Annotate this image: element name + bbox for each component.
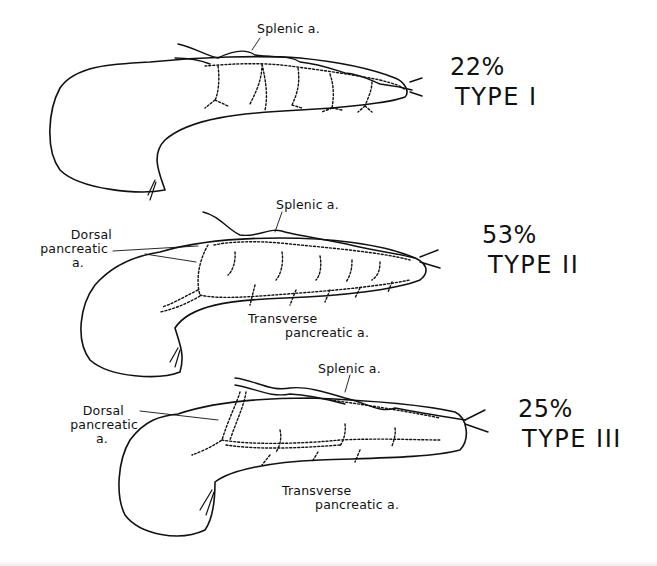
percentage-label: 25% xyxy=(518,396,573,422)
pancreas-type-3 xyxy=(119,375,488,536)
dorsal-pancreatic-label-line2: pancreatic xyxy=(18,242,108,256)
type-label: TYPE III xyxy=(522,426,622,452)
splenic-artery-label: Splenic a. xyxy=(257,22,320,36)
splenic-artery-label: Splenic a. xyxy=(318,362,381,376)
splenic-artery-label: Splenic a. xyxy=(276,198,339,212)
type-label: TYPE I xyxy=(455,84,538,110)
cropped-caption-edge xyxy=(0,560,657,566)
transverse-pancreatic-label-line2: pancreatic a. xyxy=(285,326,369,340)
transverse-pancreatic-label-line2: pancreatic a. xyxy=(315,498,399,512)
transverse-pancreatic-label-line1: Transverse xyxy=(248,312,317,326)
dorsal-pancreatic-label-line3: a. xyxy=(96,432,108,446)
dorsal-pancreatic-label-line3: a. xyxy=(72,256,84,270)
type-label: TYPE II xyxy=(488,252,579,278)
transverse-pancreatic-label-line1: Transverse xyxy=(282,484,351,498)
percentage-label: 22% xyxy=(450,54,505,80)
percentage-label: 53% xyxy=(482,222,537,248)
dorsal-pancreatic-label-line2: pancreatic xyxy=(42,418,138,432)
pancreas-type-1 xyxy=(50,38,422,200)
pancreas-diagram-artwork xyxy=(0,0,657,566)
dorsal-pancreatic-label-line1: Dorsal xyxy=(50,404,124,418)
pancreas-type-2 xyxy=(81,212,440,376)
dorsal-pancreatic-label-line1: Dorsal xyxy=(40,228,112,242)
